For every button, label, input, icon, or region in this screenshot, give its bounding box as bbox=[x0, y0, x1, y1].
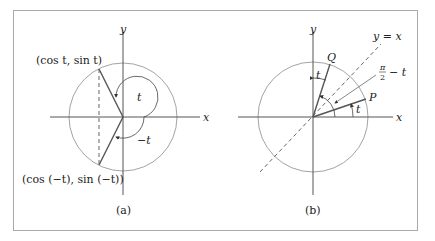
y-label-a: y bbox=[119, 23, 127, 36]
caption-b: (b) bbox=[305, 204, 321, 217]
mid-angle-den: 2 bbox=[380, 73, 385, 82]
point-upper-label: (cos t, sin t) bbox=[36, 54, 102, 67]
y-label-b: y bbox=[309, 23, 317, 36]
angle-q-label: t bbox=[316, 69, 321, 82]
x-label-a: x bbox=[203, 111, 210, 124]
point-lower-label: (cos (−t), sin (−t)) bbox=[22, 173, 124, 186]
panel-a: y x (cos t, sin t) (cos (−t), sin (−t)) … bbox=[22, 23, 210, 217]
panel-b: y x y = x Q P t t π 2 − t (b) bbox=[238, 23, 407, 217]
angle-neg-t-label: −t bbox=[137, 134, 151, 147]
unit-circle-figure: y x (cos t, sin t) (cos (−t), sin (−t)) … bbox=[0, 0, 435, 241]
mid-angle-rest: − t bbox=[389, 66, 407, 79]
x-label-b: x bbox=[396, 111, 403, 124]
mid-angle-num: π bbox=[379, 63, 386, 72]
point-p-label: P bbox=[368, 91, 377, 104]
line-label: y = x bbox=[372, 30, 402, 43]
angle-p-label: t bbox=[356, 103, 361, 116]
angle-arc-p bbox=[351, 104, 353, 117]
radius-upper bbox=[99, 69, 123, 117]
point-q-label: Q bbox=[327, 51, 336, 64]
angle-t-label: t bbox=[137, 91, 142, 104]
line-y-equals-x bbox=[260, 44, 381, 172]
caption-a: (a) bbox=[116, 204, 131, 217]
radius-lower bbox=[99, 117, 123, 165]
